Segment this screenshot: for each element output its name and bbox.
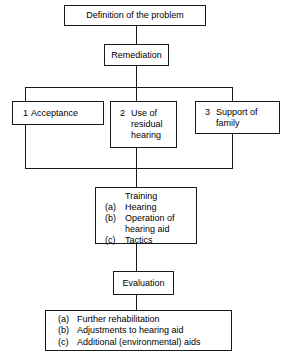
- node-acceptance-content: 1 Acceptance: [13, 108, 103, 119]
- node-definition-label: Definition of the problem: [65, 10, 205, 21]
- node-acceptance[interactable]: 1 Acceptance: [12, 101, 104, 125]
- node-training-item-2-text: Tactics: [125, 235, 153, 246]
- node-acceptance-label: Acceptance: [31, 108, 78, 119]
- list-item: (c) Tactics: [105, 235, 205, 246]
- node-outcomes-item-0-marker: (a): [58, 314, 77, 325]
- node-training-item-0-marker: (a): [105, 202, 125, 213]
- node-support-of-family[interactable]: 3 Support of family: [195, 101, 280, 134]
- node-outcomes-item-2-text: Additional (environmental) aids: [77, 337, 201, 348]
- node-training[interactable]: Training (a) Hearing (b) Operation of he…: [95, 187, 197, 244]
- node-outcomes-list: (a) Further rehabilitation (b) Adjustmen…: [58, 313, 231, 348]
- node-residual-line2: residual: [131, 119, 163, 129]
- node-residual-line1: Use of: [131, 108, 157, 118]
- connector-evaluation-to-outcomes: [136, 295, 137, 310]
- list-item: (a) Hearing: [105, 202, 205, 213]
- node-training-item-0-text: Hearing: [125, 202, 157, 213]
- connector-riser-acceptance: [25, 125, 26, 169]
- node-training-title: Training: [96, 191, 196, 202]
- connector-drop-to-residual: [136, 87, 137, 101]
- list-item: (c) Additional (environmental) aids: [58, 337, 231, 348]
- node-definition-of-the-problem[interactable]: Definition of the problem: [64, 5, 206, 26]
- list-item: (a) Further rehabilitation: [58, 314, 231, 325]
- node-evaluation-label: Evaluation: [114, 278, 173, 289]
- node-training-content: Training (a) Hearing (b) Operation of he…: [96, 191, 196, 246]
- node-support-line1: Support of: [216, 107, 258, 117]
- connector-drop-to-acceptance: [25, 87, 26, 101]
- node-outcomes-item-0-text: Further rehabilitation: [77, 314, 160, 325]
- node-support-row: 3 Support of family: [196, 107, 279, 129]
- node-support-content: 3 Support of family: [196, 107, 279, 129]
- connector-remediation-down: [136, 66, 137, 87]
- node-training-item-1-text: Operation of: [125, 213, 175, 224]
- node-training-list: (a) Hearing (b) Operation of hearing aid…: [96, 202, 205, 246]
- node-use-of-residual-hearing[interactable]: 2 Use of residual hearing: [110, 101, 177, 148]
- node-residual-number: 2: [120, 108, 131, 141]
- node-training-item-1-marker: (b): [105, 213, 125, 224]
- node-outcomes-item-1-marker: (b): [58, 325, 77, 336]
- node-residual-label: Use of residual hearing: [131, 108, 163, 141]
- node-acceptance-row: 1 Acceptance: [13, 108, 103, 119]
- node-outcomes-item-2-marker: (c): [58, 337, 77, 348]
- node-training-item-2-marker: (c): [105, 235, 125, 246]
- node-outcomes-item-1-text: Adjustments to hearing aid: [77, 325, 184, 336]
- connector-drop-to-support: [232, 87, 233, 101]
- connector-branch-bar-top: [25, 87, 233, 88]
- connector-training-to-evaluation: [136, 244, 137, 271]
- connector-definition-to-remediation: [136, 26, 137, 44]
- node-acceptance-number: 1: [23, 108, 31, 119]
- node-residual-row: 2 Use of residual hearing: [111, 108, 176, 141]
- node-evaluation[interactable]: Evaluation: [113, 271, 174, 295]
- list-item: (b) Adjustments to hearing aid: [58, 325, 231, 336]
- connector-riser-support: [232, 134, 233, 169]
- node-training-item-1-continuation: hearing aid: [105, 224, 205, 235]
- node-residual-line3: hearing: [131, 130, 161, 140]
- node-support-line2: family: [216, 118, 240, 128]
- node-support-label: Support of family: [216, 107, 258, 129]
- connector-merge-bar: [25, 168, 233, 169]
- node-outcomes[interactable]: (a) Further rehabilitation (b) Adjustmen…: [45, 310, 232, 351]
- list-item: (b) Operation of: [105, 213, 205, 224]
- flowchart-diagram: Definition of the problem Remediation 1 …: [0, 0, 293, 362]
- node-support-number: 3: [205, 107, 216, 129]
- node-residual-content: 2 Use of residual hearing: [111, 108, 176, 141]
- node-remediation-label: Remediation: [105, 50, 168, 61]
- node-remediation[interactable]: Remediation: [104, 44, 169, 66]
